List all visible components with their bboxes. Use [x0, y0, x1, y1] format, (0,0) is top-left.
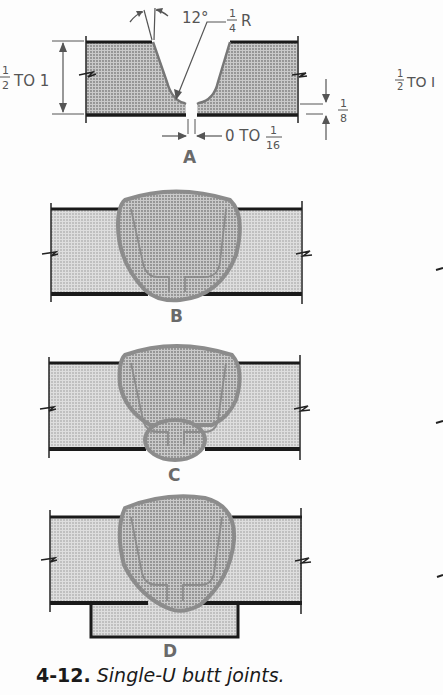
- svg-text:1: 1: [2, 64, 9, 77]
- panel-label-c: C: [168, 465, 180, 485]
- joint-diagram: 1 2 TO 1 12° 1 4 R 1 8 0 TO 1 16 A 1 2: [0, 0, 443, 695]
- back-bead-c: [145, 420, 205, 460]
- svg-text:1: 1: [340, 97, 347, 110]
- svg-text:4: 4: [229, 22, 236, 35]
- svg-text:2: 2: [2, 79, 9, 92]
- svg-text:8: 8: [340, 112, 347, 125]
- groove-angle-label: 12°: [182, 9, 209, 27]
- svg-text:2: 2: [397, 81, 403, 92]
- svg-text:R: R: [241, 12, 251, 30]
- figure-caption: 4-12.Single-U butt joints.: [36, 664, 285, 687]
- right-plate-a: [197, 42, 297, 114]
- weld-bead-c: [120, 346, 240, 425]
- right-cutoff-fragments: [436, 268, 443, 577]
- svg-text:TO 1: TO 1: [13, 72, 49, 90]
- panel-b: B: [42, 192, 312, 327]
- panel-d: D: [41, 496, 311, 661]
- figure-number: 4-12.: [36, 664, 91, 686]
- panel-c: C: [40, 346, 310, 485]
- svg-text:0 TO: 0 TO: [225, 127, 260, 145]
- svg-text:1: 1: [397, 68, 403, 79]
- panel-label-a: A: [183, 147, 197, 167]
- left-plate-a: [86, 42, 186, 114]
- root-opening-label: 0 TO 1 16: [225, 124, 282, 152]
- svg-text:TO I: TO I: [406, 74, 435, 90]
- right-thickness-label: 1 2 TO I: [395, 68, 435, 92]
- root-face-label: 1 8: [338, 97, 348, 125]
- svg-text:1: 1: [270, 124, 277, 137]
- thickness-label: 1 2 TO 1: [0, 64, 49, 92]
- panel-label-b: B: [170, 306, 183, 326]
- root-radius-label: 1 4 R: [227, 7, 251, 35]
- panel-a: 1 2 TO 1 12° 1 4 R 1 8 0 TO 1 16 A 1 2: [0, 7, 435, 167]
- svg-text:16: 16: [266, 139, 280, 152]
- figure-title: Single-U butt joints.: [97, 664, 285, 686]
- panel-label-d: D: [163, 641, 177, 661]
- svg-text:1: 1: [229, 7, 236, 20]
